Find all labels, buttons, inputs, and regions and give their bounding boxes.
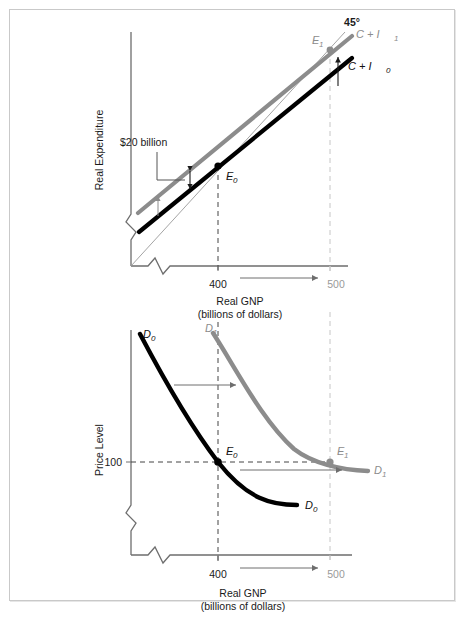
point-e0-top (214, 162, 221, 169)
bottom-tick-label-400: 400 (209, 568, 227, 580)
curve-label-d0-bottom: D 0 (305, 499, 318, 514)
point-label-e0-top: E 0 (226, 170, 238, 185)
point-e1-bottom (326, 458, 333, 465)
curve-label-c-plus-i0: C + I 0 (348, 60, 391, 75)
point-e0-bottom (214, 458, 222, 466)
point-label-e1-bottom: E 1 (337, 445, 348, 460)
curve-label-d0-top-sub: 0 (151, 334, 156, 343)
curve-label-d1-bottom: D 1 (374, 464, 386, 479)
point-e1-top (327, 47, 334, 54)
bottom-tick-label-500: 500 (327, 568, 345, 580)
curve-label-d0-bottom-sub: 0 (313, 505, 318, 514)
top-tick-label-500: 500 (327, 278, 345, 290)
curve-label-d1-bottom-text: D (374, 464, 382, 476)
bottom-panel: Price Level 100 400 500 Real GNP (billio… (93, 312, 386, 612)
shift-amount-label: $20 billion (120, 136, 167, 148)
point-label-e1-bottom-sub: 1 (344, 451, 348, 460)
point-label-e1-top: E 1 (312, 34, 323, 49)
top-x-axis-label-line2: (billions of dollars) (198, 308, 283, 320)
top-y-axis-label: Real Expenditure (93, 110, 105, 191)
top-tick-label-400: 400 (209, 278, 227, 290)
curve-label-d1-top: D 1 (205, 322, 217, 337)
economics-diagram: Real Expenditure 400 500 Real GNP (billi… (0, 0, 469, 622)
point-label-e0-bottom: E 0 (226, 445, 238, 460)
curve-label-d0-top-text: D (143, 328, 151, 340)
bottom-x-axis-label-line2: (billions of dollars) (201, 600, 286, 612)
point-label-e0-bottom-sub: 0 (233, 451, 238, 460)
curve-c-plus-i0 (139, 58, 352, 232)
curve-label-c-plus-i0-sub: 0 (386, 66, 391, 75)
forty-five-degree-label: 45° (344, 16, 360, 28)
bottom-y-axis-label: Price Level (93, 424, 105, 476)
curve-c-plus-i1 (138, 36, 352, 213)
point-label-e0-top-sub: 0 (233, 176, 238, 185)
top-panel: Real Expenditure 400 500 Real GNP (billi… (93, 16, 398, 320)
curve-label-d1-top-sub: 1 (213, 328, 217, 337)
curve-label-c-plus-i1-sub: 1 (394, 34, 398, 43)
curve-label-c-plus-i0-text: C + I (348, 60, 372, 72)
bottom-tick-label-100: 100 (104, 456, 122, 468)
top-x-axis-label-line1: Real GNP (216, 295, 263, 307)
top-x-axis (131, 258, 348, 274)
curve-label-d1-bottom-sub: 1 (382, 470, 386, 479)
figure-root: Real Expenditure 400 500 Real GNP (billi… (0, 0, 469, 622)
curve-label-d0-bottom-text: D (305, 499, 313, 511)
curve-label-d1-top-text: D (205, 322, 213, 334)
bottom-x-axis-label-line1: Real GNP (219, 587, 266, 599)
curve-label-c-plus-i1: C + I 1 (356, 28, 398, 43)
top-y-axis (126, 32, 136, 266)
point-label-e1-top-sub: 1 (319, 40, 323, 49)
bottom-x-axis (131, 547, 352, 563)
curve-label-c-plus-i1-text: C + I (356, 28, 380, 40)
bottom-y-axis (126, 330, 136, 555)
